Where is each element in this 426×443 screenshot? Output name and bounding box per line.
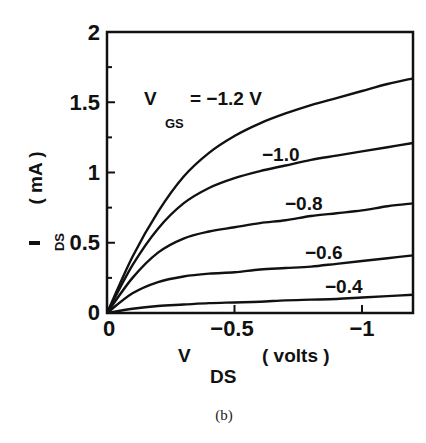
figure-caption: (b) <box>215 407 233 424</box>
vgs-label-value: = −1.2 V <box>190 88 262 109</box>
y-tick-label-0: 0 <box>88 300 100 325</box>
curve-label-neg0.6: −0.6 <box>305 242 343 263</box>
iv-characteristics-chart: 2 1.5 1 0.5 0 0 −0.5 −1 V DS ( volts ) (… <box>0 0 426 443</box>
curve-vgs--0.4-v <box>107 295 413 313</box>
curve-label-neg0.4: −0.4 <box>325 276 363 297</box>
x-axis-label-unit: ( volts ) <box>262 345 330 366</box>
curve-vgs--1.0-v <box>107 143 413 313</box>
y-axis-label-main <box>29 241 40 245</box>
data-curves <box>107 78 413 313</box>
y-tick-label-0.5: 0.5 <box>69 230 100 255</box>
y-axis-label-unit: ( mA ) <box>25 151 46 204</box>
plot-frame <box>107 32 413 313</box>
x-axis-label-main: V <box>178 345 191 366</box>
y-axis-label-sub: DS <box>52 233 67 251</box>
vgs-label-main: V <box>144 88 157 109</box>
vgs-label-sub: GS <box>165 116 184 131</box>
curve-label-neg1.0: −1.0 <box>262 144 300 165</box>
y-tick-label-2: 2 <box>88 20 100 45</box>
x-tick-label-neg1: −1 <box>349 316 374 341</box>
curve-vgs--0.6-v <box>107 255 413 313</box>
x-tick-label-0: 0 <box>103 316 115 341</box>
y-tick-label-1: 1 <box>88 160 100 185</box>
x-tick-label-neg0.5: −0.5 <box>210 316 253 341</box>
curve-label-neg0.8: −0.8 <box>285 193 323 214</box>
x-axis-label-sub: DS <box>210 366 236 387</box>
y-tick-label-1.5: 1.5 <box>69 90 100 115</box>
curve-vgs--1.2-v <box>107 78 413 313</box>
